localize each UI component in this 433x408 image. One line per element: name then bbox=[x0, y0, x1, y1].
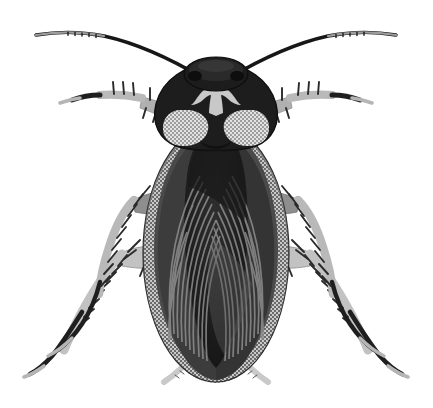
body bbox=[143, 124, 289, 384]
illustration-canvas: Cockroach bbox=[0, 0, 433, 408]
head-capsule bbox=[184, 57, 248, 91]
eye-left bbox=[188, 71, 202, 81]
cockroach-illustration bbox=[0, 0, 433, 408]
eye-right bbox=[230, 71, 244, 81]
